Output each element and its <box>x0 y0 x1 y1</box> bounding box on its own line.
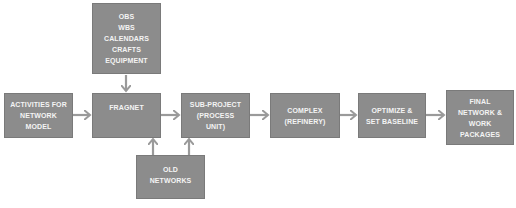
node-text: SET BASELINE <box>366 116 418 127</box>
node-text: EQUIPMENT <box>105 55 148 66</box>
node-fragnet: FRAGNET <box>92 93 161 138</box>
node-text: NETWORK <box>20 110 57 121</box>
node-text: CALENDARS <box>104 33 149 44</box>
node-text: WORK <box>469 118 492 129</box>
node-text: MODEL <box>26 121 52 132</box>
node-old-networks: OLD NETWORKS <box>136 155 205 199</box>
node-text: OPTIMIZE & <box>371 105 412 116</box>
connector-arrows <box>0 0 516 208</box>
node-text: UNIT) <box>206 121 225 132</box>
node-text: OBS <box>119 11 134 22</box>
node-subproject: SUB-PROJECT (PROCESS UNIT) <box>181 93 250 138</box>
node-activities: ACTIVITIES FOR NETWORK MODEL <box>4 93 73 138</box>
node-text: PACKAGES <box>460 129 500 140</box>
node-text: WBS <box>118 22 135 33</box>
node-complex: COMPLEX (REFINERY) <box>270 93 340 138</box>
node-text: NETWORK & <box>458 107 502 118</box>
node-text: COMPLEX <box>287 105 322 116</box>
node-text: (REFINERY) <box>285 116 326 127</box>
node-text: SUB-PROJECT <box>190 99 241 110</box>
node-text: NETWORKS <box>150 175 192 186</box>
node-resources: OBS WBS CALENDARS CRAFTS EQUIPMENT <box>92 3 161 74</box>
node-text: FRAGNET <box>109 102 144 113</box>
node-text: CRAFTS <box>112 44 141 55</box>
node-text: OLD <box>163 164 178 175</box>
node-text: (PROCESS <box>197 110 234 121</box>
node-optimize: OPTIMIZE & SET BASELINE <box>358 93 426 138</box>
node-text: FINAL <box>469 96 490 107</box>
node-text: ACTIVITIES FOR <box>10 99 67 110</box>
node-final: FINAL NETWORK & WORK PACKAGES <box>446 90 514 145</box>
